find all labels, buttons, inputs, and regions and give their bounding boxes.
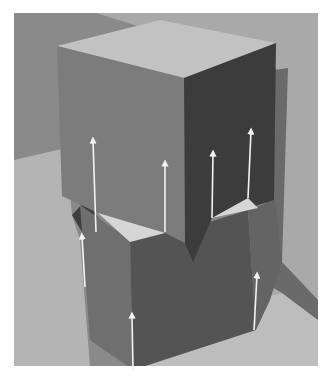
arrow-icon [132,315,133,370]
cube-scene [0,0,330,383]
cube-render-figure [0,0,330,383]
arrow-icon [212,153,213,218]
